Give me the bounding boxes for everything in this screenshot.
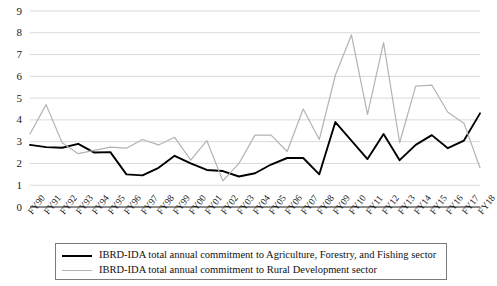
- y-axis-tick-label: 1: [6, 180, 22, 191]
- y-axis-tick-label: 2: [6, 158, 22, 169]
- series-line-agriculture: [30, 113, 480, 176]
- legend-label-agriculture: IBRD-IDA total annual commitment to Agri…: [99, 250, 436, 261]
- plot-svg: [0, 0, 488, 215]
- series-line-rural: [30, 35, 480, 181]
- legend-item-rural: IBRD-IDA total annual commitment to Rura…: [62, 263, 446, 278]
- y-axis-tick-label: 9: [6, 6, 22, 17]
- legend-item-agriculture: IBRD-IDA total annual commitment to Agri…: [62, 248, 446, 263]
- y-axis-tick-label: 8: [6, 27, 22, 38]
- series-lines: [30, 35, 480, 181]
- legend: IBRD-IDA total annual commitment to Agri…: [55, 243, 447, 280]
- y-axis-tick-label: 0: [6, 202, 22, 213]
- legend-swatch-black: [62, 255, 92, 257]
- plot-area: 0123456789: [0, 0, 488, 215]
- y-axis-tick-label: 4: [6, 114, 22, 125]
- legend-swatch-gray: [62, 270, 92, 271]
- legend-label-rural: IBRD-IDA total annual commitment to Rura…: [99, 265, 377, 276]
- y-axis-tick-label: 6: [6, 71, 22, 82]
- y-axis-tick-label: 7: [6, 49, 22, 60]
- y-axis-tick-label: 3: [6, 136, 22, 147]
- y-axis-tick-label: 5: [6, 93, 22, 104]
